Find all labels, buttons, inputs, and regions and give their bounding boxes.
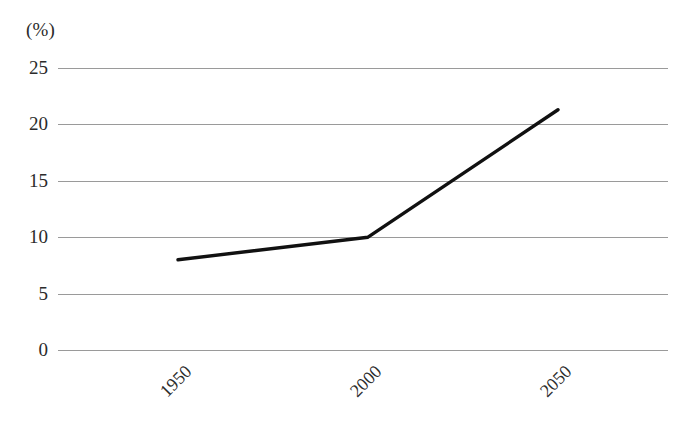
plot-area: [0, 0, 697, 427]
y-axis-tick-label: 5: [4, 284, 48, 303]
y-axis-tick-label: 15: [4, 171, 48, 190]
y-axis-tick-label: 10: [4, 227, 48, 246]
y-axis-tick-label: 25: [4, 58, 48, 77]
y-axis-tick-label: 0: [4, 340, 48, 359]
gridlines: [58, 69, 668, 351]
y-axis-tick-label: 20: [4, 114, 48, 133]
line-chart: (%) 2520151050 195020002050: [0, 0, 697, 427]
